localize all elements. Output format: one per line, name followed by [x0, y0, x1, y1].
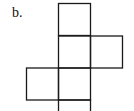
cube-net-diagram	[0, 0, 134, 111]
net-square-middle-right	[91, 36, 123, 68]
net-square-lower-center	[59, 68, 91, 100]
net-square-top	[59, 4, 91, 36]
net-square-bottom	[59, 100, 91, 111]
net-square-lower-left	[27, 68, 59, 100]
net-square-middle-center	[59, 36, 91, 68]
